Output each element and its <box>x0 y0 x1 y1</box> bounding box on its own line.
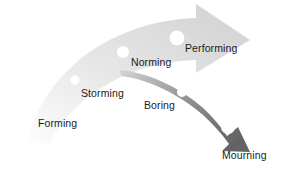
stage-marker-boring <box>177 87 187 97</box>
stage-label-performing: Performing <box>185 42 237 54</box>
stage-label-storming: Storming <box>81 87 124 99</box>
team-development-diagram: Forming Storming Norming Performing Bori… <box>0 0 284 170</box>
descending-decline-arrow <box>119 70 250 152</box>
stage-label-mourning: Mourning <box>222 149 267 161</box>
stage-label-boring: Boring <box>144 99 175 111</box>
stage-label-forming: Forming <box>38 117 77 129</box>
stage-marker-forming <box>32 110 38 116</box>
stage-marker-norming <box>117 46 129 58</box>
stage-label-norming: Norming <box>131 56 171 68</box>
descending-arrow-body <box>119 70 250 152</box>
diagram-canvas <box>0 0 284 170</box>
stage-marker-storming <box>70 75 79 84</box>
stage-marker-performing <box>170 31 185 46</box>
stage-marker-mourning <box>221 120 235 134</box>
